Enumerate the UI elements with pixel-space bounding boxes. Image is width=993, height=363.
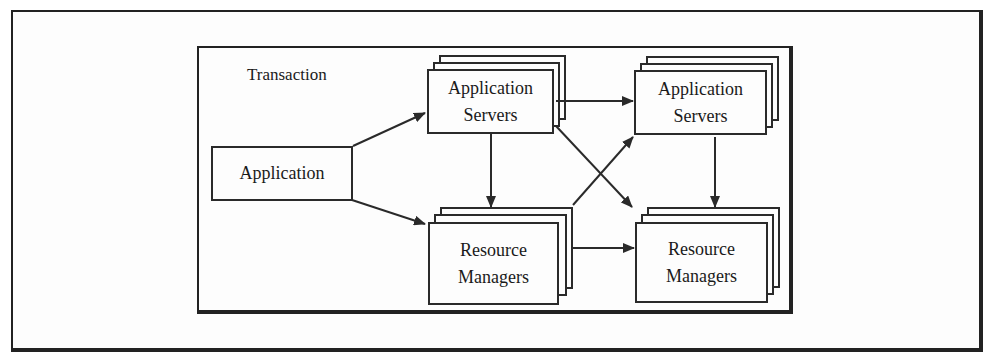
app-servers-2-line1: Application (658, 76, 743, 103)
app-servers-1-line2: Servers (448, 102, 533, 129)
app-servers-1-line1: Application (448, 75, 533, 102)
app-servers-1-node: Application Servers (427, 69, 554, 134)
app-servers-2-line2: Servers (658, 103, 743, 130)
resource-managers-2-node: Resource Managers (635, 222, 768, 303)
resource-managers-2-line2: Managers (666, 263, 737, 290)
resource-managers-1-node: Resource Managers (428, 222, 559, 305)
application-node: Application (211, 146, 353, 201)
resource-managers-1-line2: Managers (458, 264, 529, 291)
transaction-label: Transaction (247, 66, 327, 83)
resource-managers-2-line1: Resource (666, 236, 737, 263)
app-servers-2-node: Application Servers (634, 70, 767, 135)
resource-managers-1-line1: Resource (458, 237, 529, 264)
application-label: Application (240, 160, 325, 187)
